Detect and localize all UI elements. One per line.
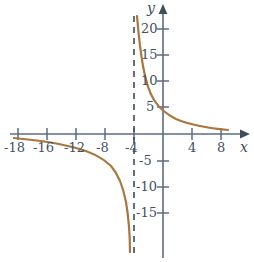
x-tick-label: -8 bbox=[96, 141, 109, 154]
coordinate-plane bbox=[0, 0, 254, 262]
x-tick-label: -4 bbox=[125, 141, 138, 154]
y-tick-label: 20 bbox=[141, 22, 158, 35]
x-axis-label: x bbox=[240, 140, 248, 154]
x-tick-label: 4 bbox=[188, 141, 196, 154]
x-tick-label: 8 bbox=[217, 141, 225, 154]
y-tick-label: -15 bbox=[136, 206, 157, 219]
y-axis bbox=[159, 4, 168, 258]
y-tick-label: 15 bbox=[141, 48, 158, 61]
y-tick-label: -5 bbox=[139, 154, 152, 167]
graph-figure: -18 -16 -12 -8 -4 4 8 20 15 10 5 -5 -10 … bbox=[0, 0, 254, 262]
y-tick-label: 10 bbox=[141, 74, 158, 87]
y-tick-label: 5 bbox=[146, 100, 154, 113]
x-tick-label: -18 bbox=[4, 141, 25, 154]
x-tick-label: -16 bbox=[33, 141, 54, 154]
curve-branch-lower-left bbox=[14, 138, 130, 252]
x-axis bbox=[10, 130, 250, 139]
y-tick-label: -10 bbox=[136, 180, 157, 193]
x-tick-label: -12 bbox=[64, 141, 85, 154]
y-axis-label: y bbox=[147, 1, 155, 15]
